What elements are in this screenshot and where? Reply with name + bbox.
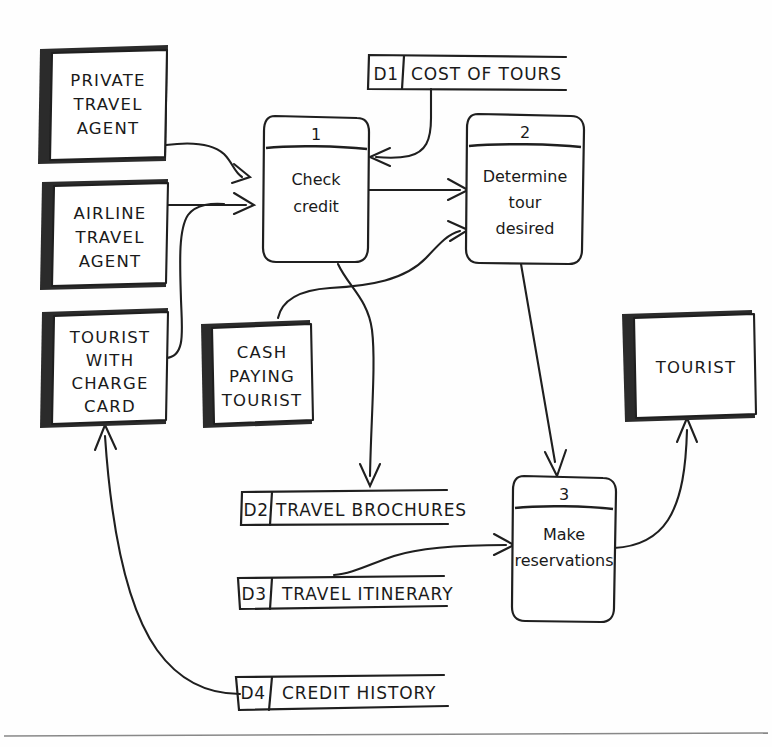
store-d3-label: TRAVEL ITINERARY — [281, 584, 453, 604]
process-1-line-1: credit — [293, 197, 339, 216]
process-2-line-0: Determine — [483, 167, 568, 186]
store-d4-label: CREDIT HISTORY — [282, 683, 436, 703]
process-2-number: 2 — [520, 123, 530, 142]
ee-private-travel-agent[interactable]: PRIVATE TRAVEL AGENT — [38, 45, 168, 164]
store-d2-code: D2 — [244, 500, 269, 520]
diagram-canvas: PRIVATE TRAVEL AGENT AIRLINE TRAVEL AGEN… — [0, 0, 772, 747]
store-d2-label: TRAVEL BROCHURES — [275, 500, 467, 520]
ee-airline-travel-agent-line-0: AIRLINE — [74, 204, 147, 223]
flow-travel-itinerary-to-make-reservations — [334, 534, 514, 575]
dfd-drawing: PRIVATE TRAVEL AGENT AIRLINE TRAVEL AGEN… — [0, 0, 772, 747]
page-bottom-rule — [4, 733, 768, 736]
flow-make-reservations-to-tourist — [614, 418, 697, 548]
flow-credit-history-to-charge-card-tourist — [95, 425, 240, 694]
ee-tourist-with-charge-card[interactable]: TOURIST WITH CHARGE CARD — [40, 308, 168, 428]
process-1-line-0: Check — [291, 170, 341, 189]
ee-tourist[interactable]: TOURIST — [622, 310, 756, 422]
store-d1-code: D1 — [374, 64, 399, 84]
store-d2[interactable]: D2 TRAVEL BROCHURES — [241, 490, 467, 525]
process-3-line-0: Make — [543, 525, 585, 544]
ee-tourist-with-charge-card-line-1: WITH — [86, 351, 134, 370]
ee-tourist-with-charge-card-line-0: TOURIST — [69, 328, 150, 347]
ee-private-travel-agent-line-2: AGENT — [77, 119, 140, 138]
process-2-line-1: tour — [509, 193, 542, 212]
process-3-number: 3 — [559, 485, 569, 504]
ee-airline-travel-agent-line-2: AGENT — [79, 252, 142, 271]
ee-tourist-with-charge-card-line-2: CHARGE — [71, 374, 148, 393]
ee-private-travel-agent-line-1: TRAVEL — [72, 95, 142, 114]
ee-private-travel-agent-line-0: PRIVATE — [70, 71, 145, 90]
process-2-line-2: desired — [495, 219, 554, 238]
process-3-line-1: reservations — [514, 551, 613, 570]
ee-cash-paying-tourist-line-2: TOURIST — [221, 391, 302, 410]
flow-cost-of-tours-to-check-credit — [370, 89, 431, 166]
store-d3-code: D3 — [242, 584, 267, 604]
ee-tourist-with-charge-card-line-3: CARD — [84, 397, 136, 416]
ee-cash-paying-tourist[interactable]: CASH PAYING TOURIST — [201, 320, 313, 428]
process-2[interactable]: 2 Determine tour desired — [466, 114, 584, 264]
ee-cash-paying-tourist-line-0: CASH — [237, 343, 288, 362]
ee-airline-travel-agent[interactable]: AIRLINE TRAVEL AGENT — [40, 179, 168, 290]
flow-check-credit-to-determine-tour — [369, 179, 468, 200]
ee-airline-travel-agent-line-1: TRAVEL — [74, 228, 144, 247]
flow-private-agent-to-check-credit — [166, 143, 250, 183]
flow-check-credit-to-travel-brochures — [338, 264, 380, 486]
ee-tourist-label: TOURIST — [655, 358, 736, 377]
store-d4-code: D4 — [241, 683, 266, 703]
process-1[interactable]: 1 Check credit — [263, 116, 369, 262]
store-d1[interactable]: D1 COST OF TOURS — [368, 55, 566, 90]
store-d4[interactable]: D4 CREDIT HISTORY — [236, 675, 448, 710]
ee-cash-paying-tourist-line-1: PAYING — [229, 367, 295, 386]
store-d3[interactable]: D3 TRAVEL ITINERARY — [238, 576, 453, 609]
process-3[interactable]: 3 Make reservations — [512, 476, 616, 622]
process-1-number: 1 — [311, 125, 321, 144]
flow-determine-tour-to-make-reservations — [521, 264, 566, 476]
store-d1-label: COST OF TOURS — [411, 64, 562, 84]
